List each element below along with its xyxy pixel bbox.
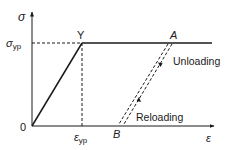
sigma-yp-label: σyp (6, 37, 22, 51)
elastic-loading-line (32, 43, 82, 126)
reloading-label: Reloading (136, 111, 183, 123)
point-b-label: B (113, 128, 120, 140)
point-y-label: Y (77, 29, 85, 41)
sigma-axis-label: σ (18, 10, 26, 24)
epsilon-axis-label: ε (206, 132, 211, 144)
unloading-label: Unloading (173, 55, 220, 67)
stress-strain-diagram: σ ε 0 σyp εyp Y A B Unloading Reloading (0, 0, 234, 150)
epsilon-yp-label: εyp (74, 131, 88, 145)
origin-label: 0 (20, 121, 26, 133)
point-a-label: A (169, 29, 177, 41)
